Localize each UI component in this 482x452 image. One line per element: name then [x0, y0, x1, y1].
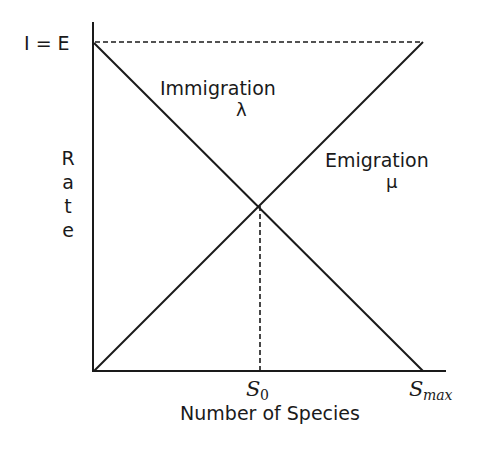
y-axis-label-letter: a: [62, 171, 74, 193]
y-axis-label-letter: t: [64, 195, 71, 217]
x-tick-label-s0: S 0: [246, 377, 269, 403]
svg-text:S: S: [246, 377, 260, 401]
svg-text:0: 0: [260, 387, 269, 403]
emigration-mu-symbol: μ: [386, 171, 398, 192]
y-tick-label-i-equals-e: I = E: [24, 32, 70, 54]
immigration-lambda-symbol: λ: [236, 99, 247, 120]
svg-text:S: S: [409, 377, 423, 401]
immigration-label: Immigration: [160, 77, 276, 99]
emigration-label: Emigration: [325, 149, 429, 171]
island-biogeography-diagram: I = E R a t e Immigration λ Emigration μ…: [0, 0, 482, 452]
y-axis-label-letter: e: [62, 219, 74, 241]
y-axis-label-letter: R: [61, 147, 74, 169]
x-axis-label: Number of Species: [180, 402, 360, 424]
svg-text:max: max: [423, 387, 453, 403]
x-tick-label-smax: S max: [409, 377, 453, 403]
